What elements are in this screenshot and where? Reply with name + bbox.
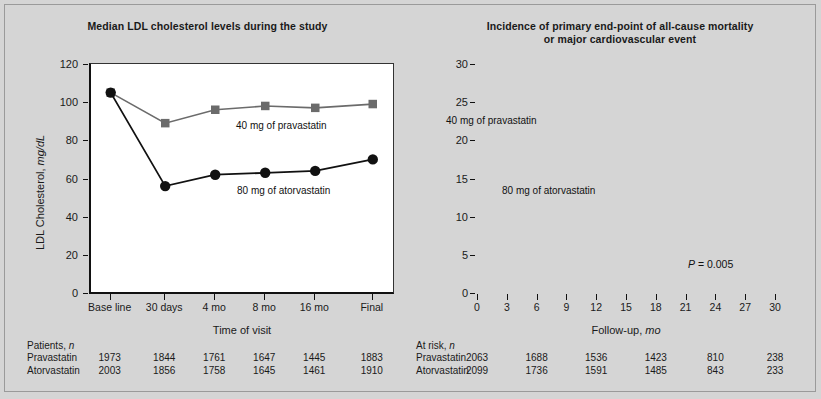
right-x-tick-label: 18 [650,301,662,313]
left-risk-value: 1844 [153,352,175,363]
panel-ldl-cholesterol: Median LDL cholesterol levels during the… [0,0,410,399]
right-y-tick-label: 5 [434,249,468,261]
right-y-tick-mark [470,217,475,218]
panel-primary-endpoint: Incidence of primary end-point of all-ca… [410,0,821,399]
right-y-tick-mark [470,293,475,294]
left-x-tick-label: 8 mo [253,301,276,313]
right-x-tick-mark [656,294,657,300]
right-risk-value: 233 [767,365,784,376]
right-chart-title-line2: or major cardiovascular event [435,33,805,46]
left-series-label-atorvastatin: 80 mg of atorvastatin [237,185,330,196]
right-risk-value: 2099 [466,365,488,376]
left-y-tick-mark [83,64,88,65]
right-x-tick-mark [566,294,567,300]
right-y-tick-mark [470,102,475,103]
right-x-tick-mark [745,294,746,300]
right-x-tick-mark [715,294,716,300]
right-risk-header-italic: n [449,340,455,351]
left-y-tick-mark [83,293,88,294]
right-y-tick-label: 0 [434,287,468,299]
left-x-tick-mark [164,294,165,300]
left-y-tick-label: 20 [44,249,78,261]
left-x-tick-label: 16 mo [300,301,329,313]
p-value-symbol: P [688,258,695,270]
left-series-label-pravastatin: 40 mg of pravastatin [236,120,327,131]
left-y-tick-mark [83,179,88,180]
right-x-tick-mark [626,294,627,300]
data-point-atorvastatin [160,181,170,191]
right-x-tick-label: 3 [504,301,510,313]
p-value-number: = 0.005 [695,258,733,270]
data-point-atorvastatin [106,87,116,97]
right-x-tick-label: 12 [590,301,602,313]
left-risk-value: 1856 [153,365,175,376]
left-y-tick-label: 80 [44,134,78,146]
data-point-pravastatin [369,100,378,109]
left-y-tick-label: 100 [44,96,78,108]
left-y-tick-label: 40 [44,211,78,223]
left-risk-value: 1445 [303,352,325,363]
data-point-pravastatin [161,119,170,128]
data-point-atorvastatin [210,170,220,180]
right-chart-title: Incidence of primary end-point of all-ca… [435,20,805,46]
left-risk-value: 1645 [253,365,275,376]
left-x-tick-mark [214,294,215,300]
left-y-tick-label: 60 [44,173,78,185]
left-y-tick-mark [83,217,88,218]
right-y-tick-mark [470,64,475,65]
right-p-value-annotation: P = 0.005 [688,258,733,270]
right-y-tick-label: 15 [434,173,468,185]
left-y-tick-mark [83,255,88,256]
right-risk-value: 1485 [645,365,667,376]
left-x-tick-mark [110,294,111,300]
right-risk-header-text: At risk, [416,340,449,351]
data-point-atorvastatin [310,166,320,176]
right-risk-table-header: At risk, n [416,340,455,351]
left-plot-area [89,63,394,294]
left-x-tick-label: 30 days [146,301,183,313]
right-x-axis-title-text: Follow-up, [591,324,645,336]
left-x-axis-title: Time of visit [213,324,271,336]
left-y-tick-mark [83,102,88,103]
right-x-tick-mark [775,294,776,300]
right-risk-value: 1536 [585,352,607,363]
right-x-tick-label: 15 [620,301,632,313]
left-risk-row-label: Atorvastatin [27,365,80,376]
data-point-pravastatin [311,104,320,113]
right-y-tick-mark [470,255,475,256]
right-risk-value: 1688 [525,352,547,363]
data-point-pravastatin [261,102,270,111]
left-risk-value: 2003 [99,365,121,376]
right-x-tick-label: 21 [680,301,692,313]
right-series-label-atorvastatin: 80 mg of atorvastatin [502,185,595,196]
series-markers-atorvastatin [106,87,378,191]
data-point-pravastatin [211,106,220,115]
right-y-tick-label: 25 [434,96,468,108]
right-x-tick-label: 6 [534,301,540,313]
left-y-tick-label: 120 [44,58,78,70]
left-x-tick-label: 4 mo [203,301,226,313]
right-series-label-pravastatin: 40 mg of pravastatin [446,115,537,126]
left-risk-table-header: Patients, n [27,340,74,351]
right-y-tick-mark [470,140,475,141]
left-risk-value: 1910 [361,365,383,376]
right-y-tick-label: 10 [434,211,468,223]
right-y-tick-label: 30 [434,58,468,70]
left-risk-row-label: Pravastatin [27,352,77,363]
right-risk-row-label: Pravastatin [416,352,466,363]
right-risk-value: 1423 [645,352,667,363]
right-x-axis-title-unit: mo [645,324,660,336]
right-x-axis-title: Follow-up, mo [591,324,660,336]
left-chart-title: Median LDL cholesterol levels during the… [20,20,395,33]
left-x-tick-mark [372,294,373,300]
right-x-tick-mark [537,294,538,300]
right-chart-title-line1: Incidence of primary end-point of all-ca… [435,20,805,33]
right-x-tick-mark [686,294,687,300]
left-x-tick-label: Final [360,301,383,313]
right-risk-value: 843 [707,365,724,376]
right-x-tick-label: 24 [710,301,722,313]
left-risk-value: 1647 [253,352,275,363]
data-point-atorvastatin [368,154,378,164]
left-risk-value: 1758 [203,365,225,376]
right-x-tick-mark [477,294,478,300]
